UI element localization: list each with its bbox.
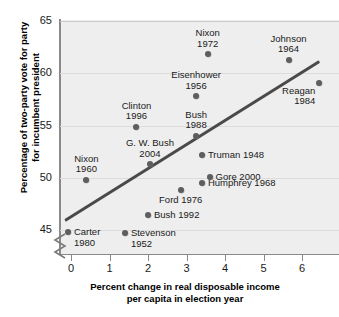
point-label-eisenhower-1956: Eisenhower1956 <box>171 70 221 91</box>
point-label-nixon-1972: Nixon1972 <box>196 28 220 49</box>
point-label-stevenson-1952: Stevenson1952 <box>131 228 176 249</box>
point-label-bush-1992: Bush 1992 <box>154 210 199 221</box>
point-label-truman-1948: Truman 1948 <box>208 150 264 161</box>
point-label-line: G. W. Bush <box>126 137 174 148</box>
x-tick-label-2: 2 <box>137 262 159 274</box>
point-label-line: Nixon <box>196 27 220 38</box>
point-label-line: 1964 <box>278 43 299 54</box>
point-label-line: 1952 <box>131 238 152 249</box>
x-tick-label-5: 5 <box>253 262 275 274</box>
x-tick-mark-6 <box>302 255 303 261</box>
x-axis-title-line-1: Percent change in real disposable income <box>90 281 280 292</box>
point-label-line: 1984 <box>294 95 315 106</box>
gridline-y-65 <box>60 21 339 22</box>
x-tick-label-6: 6 <box>291 262 313 274</box>
data-point-truman-1948 <box>199 152 205 158</box>
y-axis-title: Percentage of two-party vote for party f… <box>18 15 41 201</box>
data-point-carter-1980 <box>65 229 71 235</box>
x-tick-mark-2 <box>148 255 149 261</box>
point-label-line: 1960 <box>76 163 97 174</box>
point-label-bush-1988: Bush1988 <box>185 110 207 131</box>
point-label-line: 1996 <box>126 110 147 121</box>
point-label-line: Bush 1992 <box>154 209 199 220</box>
point-label-line: Humphrey 1968 <box>208 177 276 188</box>
point-label-line: Truman 1948 <box>208 149 264 160</box>
y-axis-line <box>59 19 61 255</box>
x-tick-mark-1 <box>110 255 111 261</box>
point-label-line: 1988 <box>186 119 207 130</box>
chart-figure: 4550556065 0123456 Nixon1972Johnson1964R… <box>0 0 339 317</box>
point-label-johnson-1964: Johnson1964 <box>271 34 307 55</box>
x-tick-label-3: 3 <box>176 262 198 274</box>
point-label-line: 1980 <box>74 237 95 248</box>
point-label-line: Carter <box>74 226 100 237</box>
data-point-stevenson-1952 <box>122 230 128 236</box>
x-tick-mark-4 <box>225 255 226 261</box>
point-label-nixon-1960: Nixon1960 <box>74 154 98 175</box>
x-tick-mark-3 <box>187 255 188 261</box>
x-axis-title: Percent change in real disposable income… <box>40 281 330 304</box>
point-label-line: Eisenhower <box>171 69 221 80</box>
point-label-line: 1956 <box>186 80 207 91</box>
gridline-y-50 <box>60 178 339 179</box>
point-label-g-w-bush-2004: G. W. Bush2004 <box>126 138 174 159</box>
point-label-line: Johnson <box>271 33 307 44</box>
point-label-line: Reagan <box>282 85 315 96</box>
x-axis-title-line-2: per capita in election year <box>127 293 244 304</box>
point-label-line: 2004 <box>139 148 160 159</box>
x-tick-label-4: 4 <box>214 262 236 274</box>
gridline-y-45 <box>60 230 339 231</box>
x-tick-mark-0 <box>71 255 72 261</box>
point-label-line: Ford 1976 <box>159 194 202 205</box>
point-label-humphrey-1968: Humphrey 1968 <box>208 178 276 189</box>
point-label-line: Stevenson <box>131 227 176 238</box>
point-label-clinton-1996: Clinton1996 <box>122 101 152 122</box>
y-axis-break-icon <box>51 233 67 263</box>
x-axis-line <box>60 254 339 255</box>
data-point-johnson-1964 <box>286 57 292 63</box>
x-tick-label-0: 0 <box>60 262 82 274</box>
data-point-ford-1976 <box>178 187 184 193</box>
point-label-ford-1976: Ford 1976 <box>159 195 202 206</box>
y-axis-title-line-1: Percentage of two-party vote for party <box>18 22 29 194</box>
y-axis-title-line-2: for incumbent president <box>29 53 40 162</box>
point-label-carter-1980: Carter1980 <box>74 227 100 248</box>
y-tick-label-45: 45 <box>28 223 52 235</box>
point-label-line: Clinton <box>122 100 152 111</box>
point-label-line: 1972 <box>197 38 218 49</box>
data-point-humphrey-1968 <box>199 180 205 186</box>
x-tick-mark-5 <box>264 255 265 261</box>
point-label-reagan-1984: Reagan1984 <box>282 86 315 107</box>
x-tick-label-1: 1 <box>99 262 121 274</box>
data-point-reagan-1984 <box>316 80 322 86</box>
point-label-line: Bush <box>185 109 207 120</box>
point-label-line: Nixon <box>74 153 98 164</box>
